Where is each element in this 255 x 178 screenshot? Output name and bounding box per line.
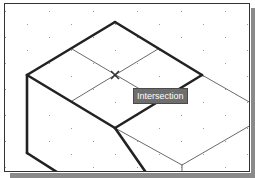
grid-dot [93, 167, 94, 168]
grid-dot [203, 50, 204, 51]
grid-dot [93, 141, 94, 142]
grid-dot [93, 37, 94, 38]
grid-dot [247, 24, 248, 25]
grid-dot [71, 24, 72, 25]
grid-dot [159, 24, 160, 25]
thick-edge-line[interactable] [115, 128, 147, 174]
grid-dot [225, 115, 226, 116]
grid-dot [49, 115, 50, 116]
snap-tooltip-label: Intersection [137, 91, 184, 101]
grid-dot [115, 24, 116, 25]
grid-dot [5, 141, 6, 142]
grid-dot [247, 154, 248, 155]
grid-dot [247, 128, 248, 129]
grid-dot [247, 102, 248, 103]
grid-dot [137, 167, 138, 168]
grid-dot [137, 11, 138, 12]
grid-dot [5, 11, 6, 12]
grid-dot [225, 63, 226, 64]
thick-edge-line[interactable] [27, 153, 60, 174]
grid-dot [159, 128, 160, 129]
grid-dot [225, 11, 226, 12]
grid-dot [49, 141, 50, 142]
grid-dot [71, 128, 72, 129]
thin-edge-line[interactable] [202, 75, 251, 103]
isometric-drawing [0, 0, 255, 178]
grid-dot [93, 11, 94, 12]
snap-tooltip: Intersection [133, 88, 188, 104]
intersection-snap-marker-icon [111, 71, 119, 79]
grid-dot [159, 76, 160, 77]
grid-dot [203, 102, 204, 103]
thin-edge-line[interactable] [115, 128, 182, 165]
grid-dot [71, 50, 72, 51]
grid-dot [5, 63, 6, 64]
grid-dot [27, 50, 28, 51]
grid-dot [93, 63, 94, 64]
grid-dot [137, 63, 138, 64]
grid-dot [181, 115, 182, 116]
grid-dot [203, 128, 204, 129]
grid-dot [225, 141, 226, 142]
grid-dot [247, 50, 248, 51]
grid-dot [203, 24, 204, 25]
grid-dot [49, 11, 50, 12]
grid-dot [225, 167, 226, 168]
grid-dot [5, 167, 6, 168]
grid-dot [225, 37, 226, 38]
grid-dot [71, 154, 72, 155]
grid-dot [181, 141, 182, 142]
thin-edges [72, 49, 251, 174]
grid-dot [5, 37, 6, 38]
grid-dot [93, 89, 94, 90]
grid-dot [115, 154, 116, 155]
grid-dot [5, 115, 6, 116]
grid-dot [115, 50, 116, 51]
grid-dot [203, 154, 204, 155]
grid-dot [247, 76, 248, 77]
grid-dot [49, 37, 50, 38]
grid-dot [5, 89, 6, 90]
thin-edge-line[interactable] [182, 125, 251, 165]
grid-dot [71, 76, 72, 77]
grid-dot [181, 37, 182, 38]
grid-dot [159, 154, 160, 155]
grid-dot [181, 11, 182, 12]
grid-dot [27, 24, 28, 25]
grid-dot [115, 102, 116, 103]
